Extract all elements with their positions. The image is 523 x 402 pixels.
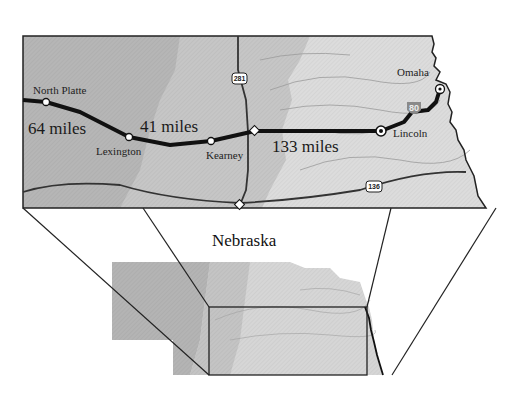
distance-label-133: 133 miles (272, 137, 339, 156)
svg-text:281: 281 (234, 75, 246, 82)
distance-label-41: 41 miles (140, 117, 198, 136)
map-canvas: 281 136 80 North Platte Lexington Kearne… (0, 0, 523, 402)
inset-map: 281 136 80 North Platte Lexington Kearne… (23, 36, 486, 209)
shield-136: 136 (366, 181, 382, 192)
svg-text:136: 136 (368, 183, 380, 190)
state-title: Nebraska (212, 231, 277, 250)
city-label-lexington: Lexington (96, 145, 142, 157)
city-label-omaha: Omaha (397, 66, 429, 78)
nebraska-map-figure: 281 136 80 North Platte Lexington Kearne… (0, 0, 523, 402)
city-label-north-platte: North Platte (33, 84, 87, 96)
city-label-lincoln: Lincoln (393, 127, 428, 139)
city-label-kearney: Kearney (206, 149, 244, 161)
state-map (112, 262, 383, 375)
distance-label-64: 64 miles (28, 119, 86, 138)
shield-281: 281 (232, 73, 247, 84)
svg-text:80: 80 (409, 103, 419, 113)
shield-i80: 80 (407, 102, 421, 114)
